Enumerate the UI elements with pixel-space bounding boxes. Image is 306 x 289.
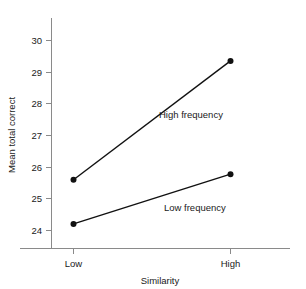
y-axis-title: Mean total correct — [6, 97, 17, 173]
x-tick-label-low: Low — [65, 258, 83, 269]
y-tick-label-28: 28 — [31, 98, 42, 109]
y-tick-label-26: 26 — [31, 162, 42, 173]
data-point-low-frequency-low — [71, 221, 77, 227]
y-tick-label-27: 27 — [31, 130, 42, 141]
data-point-high-frequency-high — [228, 58, 234, 64]
series-label-high-frequency: High frequency — [159, 109, 223, 120]
x-axis-title: Similarity — [141, 275, 180, 286]
series-label-low-frequency: Low frequency — [164, 202, 226, 213]
y-tick-label-25: 25 — [31, 193, 42, 204]
series-line-low-frequency — [74, 174, 231, 224]
y-tick-label-30: 30 — [31, 35, 42, 46]
data-point-low-frequency-high — [228, 171, 234, 177]
x-tick-label-high: High — [221, 258, 241, 269]
chart-figure: 30 29 28 27 26 25 24 Low High Similarity… — [0, 0, 306, 289]
line-chart-plot: 30 29 28 27 26 25 24 Low High Similarity… — [0, 0, 306, 289]
series-line-high-frequency — [74, 61, 231, 180]
data-point-high-frequency-low — [71, 177, 77, 183]
y-tick-label-24: 24 — [31, 225, 42, 236]
y-tick-label-29: 29 — [31, 67, 42, 78]
